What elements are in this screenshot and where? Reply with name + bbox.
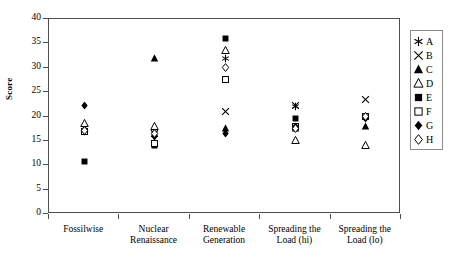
legend-item-label: E xyxy=(424,92,432,103)
filled-diamond-marker-icon xyxy=(413,120,424,131)
data-point-g-3 xyxy=(291,122,300,131)
data-points-layer xyxy=(49,19,399,212)
data-point-g-2 xyxy=(221,129,230,138)
legend-item-b[interactable]: B xyxy=(413,48,441,62)
x-tick-mark xyxy=(400,214,401,219)
data-point-d-1 xyxy=(150,122,159,131)
data-point-d-0 xyxy=(80,119,89,128)
data-point-a-1 xyxy=(150,129,159,138)
y-tick-label: 10 xyxy=(0,159,48,169)
data-point-h-2 xyxy=(221,63,230,72)
data-point-h-4 xyxy=(361,112,370,121)
scatter-chart-figure: Score 0510152025303540 ABCDEFGH Fossilwi… xyxy=(0,0,451,272)
data-point-a-3 xyxy=(291,102,300,111)
x-tick-mark xyxy=(189,214,190,219)
data-point-e-2 xyxy=(221,34,230,43)
data-point-c-4 xyxy=(361,122,370,131)
data-point-a-4 xyxy=(361,112,370,121)
data-point-c-3 xyxy=(291,124,300,133)
data-point-g-0 xyxy=(80,101,89,110)
legend-item-label: H xyxy=(424,134,433,145)
data-point-a-0 xyxy=(80,127,89,136)
x-tick-label: Spreading theLoad (lo) xyxy=(322,224,408,246)
data-point-c-2 xyxy=(221,124,230,133)
data-point-a-2 xyxy=(221,54,230,63)
legend-item-h[interactable]: H xyxy=(413,132,441,146)
data-point-g-1 xyxy=(150,132,159,141)
asterisk-marker-icon xyxy=(413,36,424,47)
data-point-h-0 xyxy=(80,126,89,135)
data-point-e-1 xyxy=(150,141,159,150)
data-point-g-4 xyxy=(361,114,370,123)
chart-legend: ABCDEFGH xyxy=(410,30,443,150)
data-point-c-1 xyxy=(150,54,159,63)
open-square-marker-icon xyxy=(413,106,424,117)
y-tick-label: 15 xyxy=(0,135,48,145)
data-point-f-3 xyxy=(291,122,300,131)
legend-item-a[interactable]: A xyxy=(413,34,441,48)
y-tick-label: 40 xyxy=(0,13,48,23)
y-tick-label: 30 xyxy=(0,62,48,72)
open-triangle-marker-icon xyxy=(413,78,424,89)
data-point-d-4 xyxy=(361,141,370,150)
data-point-b-2 xyxy=(221,107,230,116)
filled-triangle-marker-icon xyxy=(413,64,424,75)
data-point-f-4 xyxy=(361,112,370,121)
y-tick-label: 35 xyxy=(0,37,48,47)
data-point-h-1 xyxy=(150,129,159,138)
x-tick-label-line: Load (lo) xyxy=(322,235,408,246)
x-tick-mark xyxy=(118,214,119,219)
y-axis-ticks: 0510152025303540 xyxy=(0,18,48,213)
data-point-c-0 xyxy=(80,127,89,136)
data-point-d-3 xyxy=(291,136,300,145)
open-diamond-marker-icon xyxy=(413,134,424,145)
x-tick-mark xyxy=(330,214,331,219)
legend-item-label: F xyxy=(424,106,432,117)
legend-item-label: G xyxy=(424,120,433,131)
y-tick-label: 20 xyxy=(0,111,48,121)
legend-item-label: B xyxy=(424,50,433,61)
data-point-e-4 xyxy=(361,112,370,121)
data-point-f-1 xyxy=(150,139,159,148)
data-point-f-2 xyxy=(221,75,230,84)
data-point-b-4 xyxy=(361,95,370,104)
filled-square-marker-icon xyxy=(413,92,424,103)
data-point-h-3 xyxy=(291,124,300,133)
data-point-d-2 xyxy=(221,46,230,55)
legend-item-f[interactable]: F xyxy=(413,104,441,118)
legend-item-label: C xyxy=(424,64,433,75)
data-point-b-0 xyxy=(80,124,89,133)
legend-item-g[interactable]: G xyxy=(413,118,441,132)
data-point-b-3 xyxy=(291,101,300,110)
plot-area xyxy=(48,18,400,213)
data-point-f-0 xyxy=(80,127,89,136)
x-tick-mark xyxy=(259,214,260,219)
y-tick-label: 0 xyxy=(0,208,48,218)
x-tick-label-line: Spreading the xyxy=(322,224,408,235)
y-tick-label: 25 xyxy=(0,86,48,96)
legend-item-e[interactable]: E xyxy=(413,90,441,104)
x-tick-mark xyxy=(48,214,49,219)
y-tick-label: 5 xyxy=(0,184,48,194)
data-point-e-0 xyxy=(80,157,89,166)
legend-item-label: D xyxy=(424,78,433,89)
legend-item-label: A xyxy=(424,36,433,47)
data-point-b-1 xyxy=(150,129,159,138)
data-point-e-3 xyxy=(291,114,300,123)
legend-item-d[interactable]: D xyxy=(413,76,441,90)
legend-item-c[interactable]: C xyxy=(413,62,441,76)
cross-marker-icon xyxy=(413,50,424,61)
